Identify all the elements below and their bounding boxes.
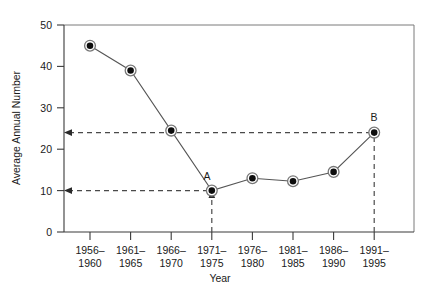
marker-dot-0: [87, 42, 94, 49]
marker-dot-3: [209, 187, 216, 194]
annotation-guides: [64, 127, 378, 232]
x-tick-label-3-line2: 1975: [200, 257, 224, 269]
data-point-0[interactable]: [85, 40, 96, 51]
data-point-3[interactable]: [206, 185, 217, 196]
marker-dot-4: [249, 175, 256, 182]
line-chart: 50 40 30 20 10 0 Average Annual Number: [0, 0, 428, 290]
y-axis: 50 40 30 20 10 0 Average Annual Number: [10, 19, 64, 238]
chart-container: 50 40 30 20 10 0 Average Annual Number: [0, 0, 428, 290]
data-point-7[interactable]: [369, 127, 380, 138]
x-tick-label-2-line1: 1966–: [157, 244, 186, 256]
x-tick-label-4-line1: 1976–: [238, 244, 267, 256]
data-point-2[interactable]: [166, 125, 177, 136]
y-tick-label-50: 50: [40, 19, 52, 31]
x-axis-title: Year: [209, 272, 231, 284]
x-tick-label-5-line1: 1981–: [278, 244, 307, 256]
x-axis: 1956– 1960 1961– 1965 1966– 1970 1971– 1…: [64, 232, 414, 284]
data-point-1[interactable]: [125, 65, 136, 76]
y-axis-tick-labels: 50 40 30 20 10 0: [40, 19, 52, 238]
x-tick-label-2-line2: 1970: [160, 257, 184, 269]
marker-dot-7: [371, 129, 378, 136]
marker-dot-1: [127, 67, 134, 74]
y-axis-ticks: [57, 25, 64, 232]
x-axis-tick-labels: 1956– 1960 1961– 1965 1966– 1970 1971– 1…: [75, 244, 389, 269]
x-tick-label-1-line1: 1961–: [116, 244, 145, 256]
x-tick-label-3-line1: 1971–: [197, 244, 226, 256]
annotation-label-b: B: [370, 111, 377, 123]
y-tick-label-40: 40: [40, 60, 52, 72]
x-tick-label-1-line2: 1965: [119, 257, 143, 269]
x-tick-label-5-line2: 1985: [281, 257, 305, 269]
x-tick-label-0-line1: 1956–: [75, 244, 104, 256]
x-tick-label-0-line2: 1960: [78, 257, 102, 269]
marker-dot-2: [168, 127, 175, 134]
x-tick-label-6-line1: 1986–: [319, 244, 348, 256]
y-tick-label-30: 30: [40, 102, 52, 114]
plot-frame: [64, 25, 414, 232]
data-point-5[interactable]: [288, 176, 299, 187]
guide-arrow-b-horizontal: [64, 129, 72, 136]
x-tick-label-7-line2: 1995: [363, 257, 387, 269]
x-axis-ticks: [90, 232, 374, 240]
y-axis-title: Average Annual Number: [10, 70, 22, 185]
y-tick-label-0: 0: [46, 226, 52, 238]
point-annotation-labels: A B: [203, 111, 377, 182]
annotation-label-a: A: [203, 170, 210, 182]
y-tick-label-10: 10: [40, 185, 52, 197]
x-tick-label-4-line2: 1980: [241, 257, 265, 269]
data-points: [85, 40, 380, 196]
y-tick-label-20: 20: [40, 143, 52, 155]
marker-dot-5: [290, 178, 297, 185]
x-tick-label-7-line1: 1991–: [360, 244, 389, 256]
x-tick-label-6-line2: 1990: [322, 257, 346, 269]
plot-frame-path: [64, 25, 414, 232]
guide-arrow-a-horizontal: [64, 187, 72, 194]
marker-dot-6: [330, 169, 337, 176]
data-point-4[interactable]: [247, 173, 258, 184]
data-point-6[interactable]: [328, 167, 339, 178]
